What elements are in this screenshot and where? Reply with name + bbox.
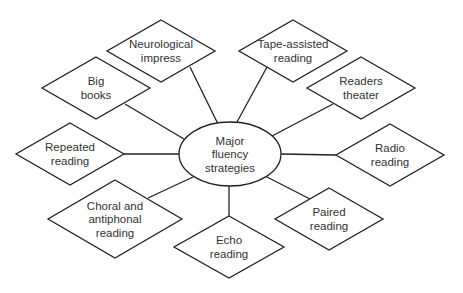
node-tape-assisted-reading: Tape-assistedreading bbox=[239, 20, 347, 82]
label-line: reading bbox=[210, 248, 248, 260]
connector-radio-reading bbox=[281, 154, 336, 155]
connector-choral-antiphonal-reading bbox=[148, 177, 193, 198]
node-radio-reading: Radioreading bbox=[336, 124, 444, 186]
node-repeated-reading: Repeatedreading bbox=[16, 123, 124, 185]
label-line: impress bbox=[141, 52, 182, 64]
connector-big-books bbox=[125, 104, 184, 139]
label-line: reading bbox=[274, 52, 312, 64]
label-line: theater bbox=[343, 89, 379, 101]
label-readers-theater: Readerstheater bbox=[339, 75, 383, 101]
label-line: Repeated bbox=[45, 141, 95, 153]
label-paired-reading: Pairedreading bbox=[310, 206, 348, 232]
label-line: Paired bbox=[312, 206, 345, 218]
connector-neurological-impress bbox=[190, 67, 218, 124]
label-line: Neurological bbox=[129, 38, 193, 50]
label-line: antiphonal bbox=[88, 213, 141, 225]
fluency-strategies-diagram: Majorfluencystrategies Neurologicalimpre… bbox=[0, 0, 463, 293]
label-line: Readers bbox=[339, 75, 383, 87]
label-line: books bbox=[81, 89, 112, 101]
label-line: reading bbox=[371, 156, 409, 168]
connector-tape-assisted-reading bbox=[237, 67, 267, 122]
center-node-major-fluency-strategies: Majorfluencystrategies bbox=[179, 122, 281, 186]
node-paired-reading: Pairedreading bbox=[275, 188, 383, 250]
label-line: Tape-assisted bbox=[258, 38, 329, 50]
label-repeated-reading: Repeatedreading bbox=[45, 141, 95, 167]
center-label-line: fluency bbox=[212, 148, 249, 160]
label-line: Big bbox=[88, 75, 105, 87]
label-line: reading bbox=[310, 220, 348, 232]
label-radio-reading: Radioreading bbox=[371, 142, 409, 168]
label-line: Echo bbox=[216, 234, 242, 246]
connector-readers-theater bbox=[272, 104, 333, 136]
label-line: reading bbox=[51, 155, 89, 167]
center-label-line: Major bbox=[216, 135, 245, 147]
label-line: Radio bbox=[375, 142, 405, 154]
connector-paired-reading bbox=[265, 176, 310, 199]
center-label-line: strategies bbox=[205, 162, 255, 174]
label-line: Choral and bbox=[87, 200, 143, 212]
node-echo-reading: Echoreading bbox=[174, 216, 284, 278]
label-line: reading bbox=[96, 227, 134, 239]
